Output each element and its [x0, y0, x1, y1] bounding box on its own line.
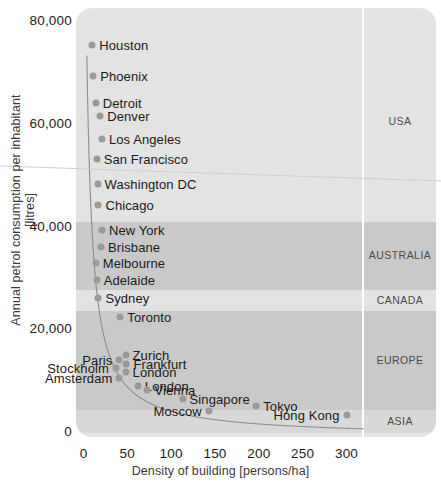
data-point-label: New York	[109, 222, 165, 237]
data-point-label: Moscow	[154, 403, 202, 418]
x-tick-0: 0	[80, 446, 88, 461]
data-point	[205, 407, 212, 414]
data-point	[95, 202, 102, 209]
data-point-label: Sydney	[105, 290, 149, 305]
data-point	[97, 112, 104, 119]
x-tick-250: 250	[291, 446, 314, 461]
data-point-label: Los Angeles	[109, 132, 181, 147]
data-point	[93, 155, 100, 162]
data-point	[93, 277, 100, 284]
data-point	[90, 72, 97, 79]
region-label-europe: EUROPE	[364, 354, 436, 366]
data-point	[116, 374, 123, 381]
y-tick-80000: 80,000	[0, 13, 72, 28]
data-point	[122, 369, 129, 376]
data-point-label: Chicago	[105, 198, 153, 213]
data-point	[122, 352, 129, 359]
x-tick-50: 50	[120, 446, 135, 461]
data-point-label: Melbourne	[103, 255, 165, 270]
data-point	[117, 313, 124, 320]
data-point	[253, 403, 260, 410]
region-label-asia: ASIA	[364, 415, 436, 427]
x-tick-150: 150	[203, 446, 226, 461]
data-point-label: Phoenix	[100, 68, 148, 83]
region-label-usa: USA	[364, 115, 436, 127]
data-point	[92, 259, 99, 266]
data-point	[112, 365, 119, 372]
data-point	[98, 136, 105, 143]
data-point	[343, 411, 350, 418]
y-tick-0: 0	[0, 424, 72, 439]
data-point	[94, 180, 101, 187]
data-point	[98, 226, 105, 233]
data-point	[92, 100, 99, 107]
data-point-label: Hong Kong	[274, 407, 340, 422]
data-point-label: Toronto	[127, 309, 171, 324]
data-point	[89, 42, 96, 49]
data-point-label: Brisbane	[108, 239, 160, 254]
data-point-label: Denver	[107, 108, 150, 123]
data-point-label: Washington DC	[105, 176, 197, 191]
data-point	[98, 243, 105, 250]
x-axis-title: Density of building [persons/ha]	[0, 464, 441, 478]
data-point-label: Adelaide	[104, 273, 155, 288]
x-tick-300: 300	[335, 446, 358, 461]
region-label-australia: AUSTRALIA	[364, 249, 436, 261]
data-point	[134, 382, 141, 389]
data-point-label: Houston	[99, 38, 148, 53]
data-point	[116, 357, 123, 364]
scatter-chart: HoustonPhoenixDetroitDenverLos AngelesSa…	[0, 0, 441, 485]
region-label-canada: CANADA	[364, 294, 436, 306]
data-point-label: San Francisco	[104, 151, 188, 166]
data-point	[144, 387, 151, 394]
region-separator-line	[362, 8, 364, 437]
y-axis-title: Annual petrol consumption per inhabitant…	[9, 90, 37, 330]
data-point	[179, 395, 186, 402]
data-point	[95, 294, 102, 301]
x-tick-100: 100	[160, 446, 183, 461]
data-point	[123, 360, 130, 367]
x-tick-200: 200	[247, 446, 270, 461]
